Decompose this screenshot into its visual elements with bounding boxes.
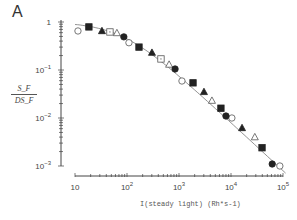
y-tick-label: 10−1: [35, 64, 51, 75]
circle-marker-open: [126, 40, 132, 46]
square-marker-filled: [218, 105, 224, 111]
triangle-marker-filled: [200, 88, 207, 94]
x-tick-label: 103: [173, 181, 186, 192]
square-marker-filled: [136, 44, 142, 50]
x-tick-label: 10: [71, 183, 80, 192]
triangle-marker-open: [166, 61, 173, 67]
square-marker-filled: [190, 80, 196, 86]
circle-marker-filled: [172, 66, 178, 72]
square-center-dot: [109, 31, 110, 32]
y-tick-label: 10−3: [35, 160, 51, 171]
square-marker-filled: [86, 24, 92, 30]
x-tick-label: 102: [121, 181, 134, 192]
x-tick-label: 104: [225, 181, 238, 192]
y-tick-label: 1: [47, 18, 52, 27]
y-tick-label: 10−2: [35, 112, 51, 123]
circle-marker-filled: [269, 161, 275, 167]
x-tick-label: 105: [277, 181, 290, 192]
square-marker-filled: [259, 145, 265, 151]
circle-marker-open: [277, 163, 283, 169]
fit-curve: [75, 25, 286, 174]
circle-marker-open: [179, 78, 185, 84]
triangle-marker-open: [208, 97, 215, 103]
circle-marker-filled: [121, 34, 127, 40]
triangle-marker-filled: [148, 49, 155, 55]
circle-marker-open: [229, 115, 235, 121]
triangle-marker-open: [251, 133, 258, 139]
circle-marker-open: [75, 28, 81, 34]
triangle-marker-filled: [239, 124, 246, 130]
scatter-chart: 10−310−210−1110102103104105: [0, 0, 297, 220]
square-center-dot: [160, 58, 161, 59]
triangle-marker-open: [113, 29, 120, 35]
circle-marker-filled: [223, 113, 229, 119]
